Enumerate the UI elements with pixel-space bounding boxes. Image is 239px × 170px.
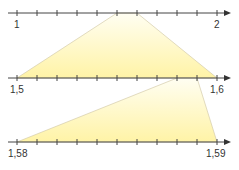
zoom-fan-2	[17, 78, 217, 142]
line-3-start-label: 1,58	[8, 149, 27, 159]
arrow-icon	[224, 10, 231, 16]
line-1-end-label: 2	[214, 20, 220, 30]
line-1-start-label: 1	[14, 20, 20, 30]
zoom-fan-1	[17, 13, 217, 78]
arrow-icon	[224, 75, 231, 81]
number-line-diagram	[0, 0, 239, 170]
arrow-icon	[224, 139, 231, 145]
line-2-end-label: 1,6	[210, 85, 224, 95]
line-2-start-label: 1,5	[10, 85, 24, 95]
line-3-end-label: 1,59	[206, 149, 225, 159]
